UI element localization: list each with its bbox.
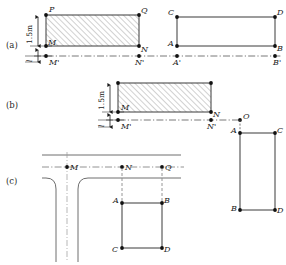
label-panel-c-D: D [163, 245, 171, 254]
node-panel-c-A [120, 201, 124, 205]
label-panel-c-Q: Q [165, 163, 172, 172]
label-panel-a-C: C [168, 8, 174, 17]
figure-root: (a) (b) (c) [0, 0, 286, 265]
label-panel-a-M-prime: M' [48, 58, 59, 67]
panel-a-hatched-rect [46, 15, 139, 46]
label-panel-b-D: D [276, 206, 284, 215]
node-panel-b-topright [209, 81, 213, 85]
label-panel-a-A: A [167, 39, 174, 48]
node-panel-c-C [120, 246, 124, 250]
label-panel-a-M: M [47, 38, 57, 47]
label-panel-c-N: N [124, 163, 133, 172]
node-panel-a-M-prime [44, 54, 48, 58]
node-panel-c-M [65, 165, 69, 169]
hatched-rect-body [46, 15, 139, 46]
node-panel-a-A [175, 44, 179, 48]
label-panel-a-D: D [276, 8, 284, 17]
panel-b-dim-height-label: 1.5m [97, 91, 106, 110]
panel-label-c: (c) [6, 176, 17, 186]
label-panel-b-C: C [277, 126, 283, 135]
label-panel-c-C: C [112, 245, 118, 254]
label-panel-c-B: B [163, 196, 170, 205]
panel-a-group: 1.5m l P Q M N M' N' [25, 5, 284, 67]
label-panel-a-P: P [48, 5, 55, 14]
label-panel-b-B: B [230, 204, 237, 213]
panel-label-b: (b) [6, 100, 18, 110]
label-panel-b-M-prime: M' [120, 122, 131, 131]
panel-b-group: 1.5m l M N M' N' O A C B D [97, 81, 284, 215]
label-panel-a-B-prime: B' [272, 58, 281, 67]
label-panel-b-A: A [230, 126, 237, 135]
label-panel-a-N: N [140, 45, 149, 54]
label-panel-c-M: M [69, 163, 79, 172]
node-panel-b-topleft [116, 81, 120, 85]
panel-a-dim-height-label: 1.5m [25, 25, 34, 44]
label-panel-b-O: O [243, 112, 250, 121]
panel-a-dim-offset-label: l [25, 59, 34, 62]
label-panel-b-M: M [120, 103, 130, 112]
node-panel-b-B [238, 208, 242, 212]
panel-c-rect [122, 203, 162, 248]
panel-c-group: M N Q A B C D [42, 152, 184, 262]
label-panel-c-A: A [112, 196, 119, 205]
node-panel-b-M-prime [116, 118, 120, 122]
panel-b-dim-offset-label: l [97, 124, 106, 127]
panel-c-fillet-left [46, 178, 56, 262]
node-panel-b-M [116, 110, 120, 114]
label-panel-a-N-prime: N' [134, 58, 144, 67]
label-panel-a-A-prime: A' [172, 58, 181, 67]
node-panel-b-A [238, 131, 242, 135]
panel-b-right-rect [240, 133, 275, 210]
label-panel-a-Q: Q [141, 6, 148, 15]
panel-label-a: (a) [6, 40, 18, 50]
diagram-canvas: 1.5m l P Q M N M' N' [0, 0, 286, 265]
node-panel-a-C [175, 15, 179, 19]
label-panel-b-N: N [212, 110, 221, 119]
plain-rect-body [177, 17, 275, 46]
node-panel-a-P [44, 13, 48, 17]
label-panel-a-B: B [276, 44, 283, 53]
label-panel-b-N-prime: N' [206, 122, 216, 131]
panel-b-hatched-rect [118, 83, 211, 112]
panel-a-plain-rect [177, 17, 275, 46]
